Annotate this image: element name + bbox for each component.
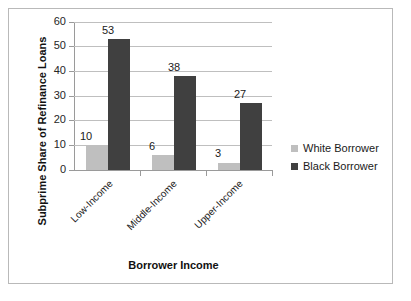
bar-black-middle-income: [174, 76, 196, 170]
gridline: [74, 46, 272, 47]
bar-white-low-income: [86, 145, 108, 170]
legend-item-black-borrower: Black Borrower: [291, 157, 379, 175]
legend-label: Black Borrower: [303, 160, 378, 172]
value-label-white-middle-income: 6: [137, 141, 167, 152]
legend-item-white-borrower: White Borrower: [291, 139, 379, 157]
bar-white-upper-income: [218, 163, 240, 170]
gridline: [74, 22, 272, 23]
bar-white-middle-income: [152, 155, 174, 170]
value-label-black-low-income: 53: [93, 25, 123, 36]
legend-swatch-icon: [291, 163, 298, 170]
x-tick-mark: [140, 171, 141, 176]
value-label-white-low-income: 10: [71, 131, 101, 142]
bar-black-low-income: [108, 39, 130, 170]
x-axis-title: Borrower Income: [74, 259, 273, 271]
legend-swatch-icon: [291, 145, 298, 152]
value-label-black-middle-income: 38: [159, 62, 189, 73]
y-axis-title: Subprime Share of Refinance Loans: [36, 11, 48, 251]
x-tick-mark: [206, 171, 207, 176]
chart-container: 60 50 40 30 20 10 0: [0, 0, 411, 301]
x-tick-mark: [272, 171, 273, 176]
x-axis-line: [74, 170, 273, 171]
value-label-black-upper-income: 27: [225, 89, 255, 100]
value-label-white-upper-income: 3: [203, 148, 233, 159]
legend-label: White Borrower: [303, 142, 379, 154]
bar-black-upper-income: [240, 103, 262, 170]
chart-legend: White Borrower Black Borrower: [291, 139, 379, 175]
